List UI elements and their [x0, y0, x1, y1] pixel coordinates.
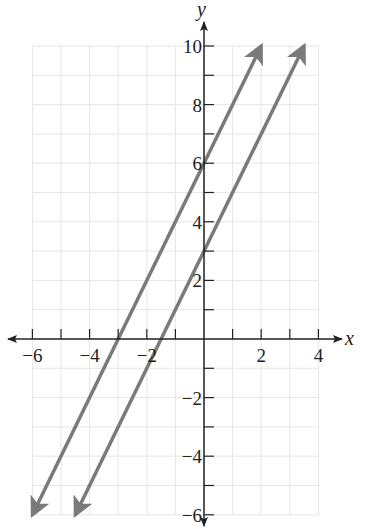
y-tick-label: 4	[193, 212, 203, 233]
grid	[32, 46, 318, 515]
y-tick-label: 10	[183, 36, 202, 57]
coordinate-plane-chart: −6−4−224108642−2−4−6 x y	[0, 0, 368, 529]
y-tick-label: 6	[193, 153, 203, 174]
x-tick-label: 4	[314, 345, 324, 366]
x-tick-label: −2	[137, 345, 157, 366]
y-tick-label: 8	[193, 95, 203, 116]
x-tick-label: −4	[79, 345, 100, 366]
y-tick-label: −4	[182, 446, 203, 467]
x-axis-label: x	[344, 327, 354, 349]
y-tick-label: −6	[182, 505, 202, 526]
y-tick-label: −2	[182, 388, 202, 409]
y-tick-label: 2	[193, 270, 203, 291]
x-tick-label: 2	[256, 345, 266, 366]
y-axis-label: y	[195, 0, 206, 21]
x-tick-label: −6	[22, 345, 42, 366]
